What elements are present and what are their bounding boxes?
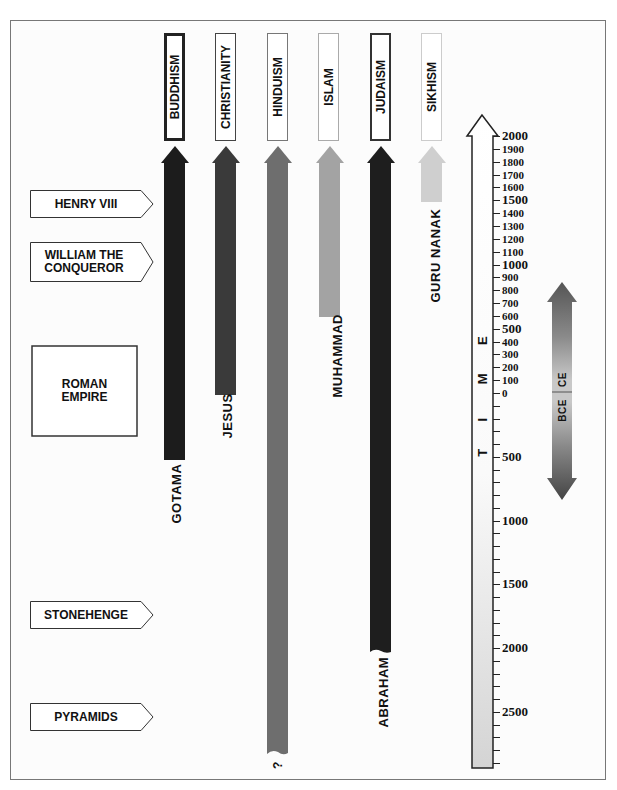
time-tick-label-ce: 800 (502, 285, 519, 296)
time-tick (493, 265, 500, 266)
hinduism-arrow (264, 146, 292, 754)
founder-label-unknown: ? (271, 758, 285, 772)
time-tick-label-ce: 1700 (502, 170, 524, 181)
time-tick (493, 597, 500, 598)
event-sign-henry-viii: HENRY VIII (30, 190, 154, 218)
time-tick (493, 457, 500, 458)
time-tick (493, 187, 500, 188)
time-tick-label-ce: 700 (502, 298, 519, 309)
time-tick (493, 200, 500, 201)
time-tick (493, 393, 500, 394)
time-tick-label-bce: 1000 (502, 515, 528, 526)
time-tick-label-ce: 0 (502, 388, 508, 399)
buddhism-arrow (161, 146, 189, 460)
event-sign-stonehenge: STONEHENGE (30, 601, 154, 629)
time-tick-label-ce: 400 (502, 337, 519, 348)
time-tick (493, 329, 500, 330)
time-tick-label-ce: 300 (502, 349, 519, 360)
time-tick (493, 213, 500, 214)
time-tick (493, 763, 500, 764)
time-tick (493, 648, 500, 649)
sikhism-arrow (418, 146, 446, 202)
time-tick (493, 252, 500, 253)
time-letter-m: M (475, 373, 490, 385)
time-tick-label-bce: 2000 (502, 642, 528, 653)
time-letter-e: E (475, 335, 490, 347)
time-tick (493, 725, 500, 726)
founder-label-gotama: GOTAMA (169, 468, 184, 524)
time-tick (493, 175, 500, 176)
christianity-arrow (212, 146, 240, 395)
judaism-arrow (367, 146, 395, 653)
time-tick-label-ce: 1500 (502, 194, 528, 205)
time-tick-label-bce: 2500 (502, 706, 528, 717)
time-tick (493, 623, 500, 624)
era-label-ce: CE (557, 370, 568, 390)
time-letter-t: T (475, 447, 490, 459)
time-tick (493, 367, 500, 368)
time-tick (493, 419, 500, 420)
time-tick (493, 572, 500, 573)
time-tick (493, 162, 500, 163)
islam-arrow (316, 146, 344, 317)
time-tick-label-bce: 1500 (502, 578, 528, 589)
time-tick (493, 239, 500, 240)
time-tick (493, 533, 500, 534)
time-tick (493, 750, 500, 751)
time-tick (493, 380, 500, 381)
time-tick-label-bce: 500 (502, 451, 522, 462)
time-tick-label-ce: 1200 (502, 234, 524, 245)
time-tick (493, 136, 500, 137)
time-tick (493, 699, 500, 700)
time-tick (493, 290, 500, 291)
time-tick (493, 521, 500, 522)
event-sign-william-the-conqueror: WILLIAM THE CONQUEROR (30, 242, 154, 282)
founder-label-guru-nanak: GURU NANAK (428, 213, 443, 303)
era-label-bce: BCE (557, 398, 568, 424)
time-tick (493, 495, 500, 496)
time-tick (493, 316, 500, 317)
time-tick (493, 712, 500, 713)
founder-label-muhammad: MUHAMMAD (330, 318, 345, 398)
time-tick-label-ce: 1300 (502, 221, 524, 232)
time-tick (493, 686, 500, 687)
time-tick (493, 661, 500, 662)
time-tick (493, 546, 500, 547)
time-tick-label-ce: 100 (502, 375, 519, 386)
time-tick (493, 635, 500, 636)
time-tick (493, 303, 500, 304)
time-tick-label-ce: 200 (502, 362, 519, 373)
time-tick (493, 431, 500, 432)
event-sign-pyramids: PYRAMIDS (30, 703, 154, 731)
event-box-roman-empire: ROMAN EMPIRE (31, 345, 138, 437)
time-tick-label-ce: 1000 (502, 259, 528, 270)
time-tick (493, 470, 500, 471)
time-tick (493, 354, 500, 355)
time-tick (493, 559, 500, 560)
time-tick-label-ce: 1400 (502, 208, 524, 219)
time-tick (493, 508, 500, 509)
founder-label-abraham: ABRAHAM (376, 662, 391, 728)
era-double-arrow (547, 282, 577, 500)
time-tick (493, 149, 500, 150)
time-tick-label-ce: 2000 (502, 130, 528, 141)
time-letter-i: I (475, 414, 490, 426)
time-tick-label-ce: 1800 (502, 157, 524, 168)
time-tick (493, 342, 500, 343)
time-tick (493, 482, 500, 483)
time-tick (493, 444, 500, 445)
time-tick (493, 406, 500, 407)
time-tick (493, 226, 500, 227)
time-tick (493, 674, 500, 675)
time-tick-label-ce: 1900 (502, 144, 524, 155)
time-tick (493, 584, 500, 585)
time-tick-label-ce: 900 (502, 272, 519, 283)
time-tick (493, 610, 500, 611)
time-tick (493, 737, 500, 738)
time-tick-label-ce: 500 (502, 323, 522, 334)
founder-label-jesus: JESUS (220, 403, 235, 439)
time-tick (493, 277, 500, 278)
